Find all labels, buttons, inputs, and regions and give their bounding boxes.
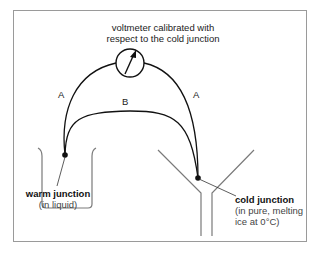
warm-junction-title: warm junction xyxy=(18,188,98,199)
wire-a-left-label: A xyxy=(58,89,64,100)
wire-b xyxy=(65,111,198,178)
voltmeter-label: voltmeter calibrated with respect to the… xyxy=(90,22,236,44)
cold-junction-dot xyxy=(195,175,201,181)
cold-junction-label: cold junction (in pure, melting ice at 0… xyxy=(235,194,303,227)
voltmeter-label-line1: voltmeter calibrated with xyxy=(90,22,236,33)
voltmeter-icon xyxy=(116,49,144,77)
cold-junction-note-line1: (in pure, melting xyxy=(235,205,303,216)
cold-junction-title: cold junction xyxy=(235,194,303,205)
wire-a-left xyxy=(64,63,116,155)
cold-junction-note-line2: ice at 0°C) xyxy=(235,216,303,227)
wire-a-right-label: A xyxy=(193,89,199,100)
wire-a-right xyxy=(144,63,198,178)
warm-junction-dot xyxy=(62,152,68,158)
voltmeter-label-line2: respect to the cold junction xyxy=(90,33,236,44)
wire-b-label: B xyxy=(122,96,128,107)
warm-junction-leader xyxy=(57,157,65,186)
cold-junction-leader xyxy=(199,179,236,196)
warm-junction-label: warm junction (in liquid) xyxy=(18,188,98,210)
warm-junction-note: (in liquid) xyxy=(18,199,98,210)
funnel-left-wall xyxy=(158,150,201,236)
